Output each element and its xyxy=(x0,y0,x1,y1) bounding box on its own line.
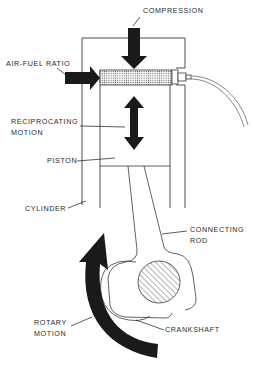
crankshaft-leader xyxy=(136,320,164,330)
reciprocating-leader xyxy=(80,126,125,127)
spark-plug-wire xyxy=(191,76,248,127)
rotary-motion-label-line2: MOTION xyxy=(34,329,66,339)
rotary-motion-label-line1: ROTARY xyxy=(34,318,67,328)
compression-leader xyxy=(133,17,140,26)
reciprocating-arrow-icon xyxy=(124,96,144,150)
connecting-rod-label-line2: ROD xyxy=(190,236,208,246)
rotary-leader xyxy=(71,317,92,326)
engine-diagram xyxy=(0,0,253,369)
crankshaft-label: CRANKSHAFT xyxy=(165,325,220,335)
connecting-rod-label-line1: CONNECTING xyxy=(190,225,244,235)
air-fuel-leader xyxy=(57,68,66,75)
piston-leader xyxy=(77,158,115,161)
air-fuel-mixture xyxy=(100,70,172,85)
spark-plug-icon xyxy=(172,70,191,84)
air-fuel-arrow-icon xyxy=(65,66,100,90)
piston-label: PISTON xyxy=(47,156,77,166)
connecting-rod-leader xyxy=(162,231,187,234)
compression-arrow-icon xyxy=(121,28,147,69)
crankshaft xyxy=(101,261,180,321)
air-fuel-ratio-label: AIR-FUEL RATIO xyxy=(6,59,70,69)
compression-label: COMPRESSION xyxy=(143,6,204,16)
cylinder-leader xyxy=(68,201,86,208)
reciprocating-motion-label-line2: MOTION xyxy=(11,128,43,138)
cylinder-label: CYLINDER xyxy=(25,204,66,214)
reciprocating-motion-label-line1: RECIPROCATING xyxy=(11,117,78,127)
